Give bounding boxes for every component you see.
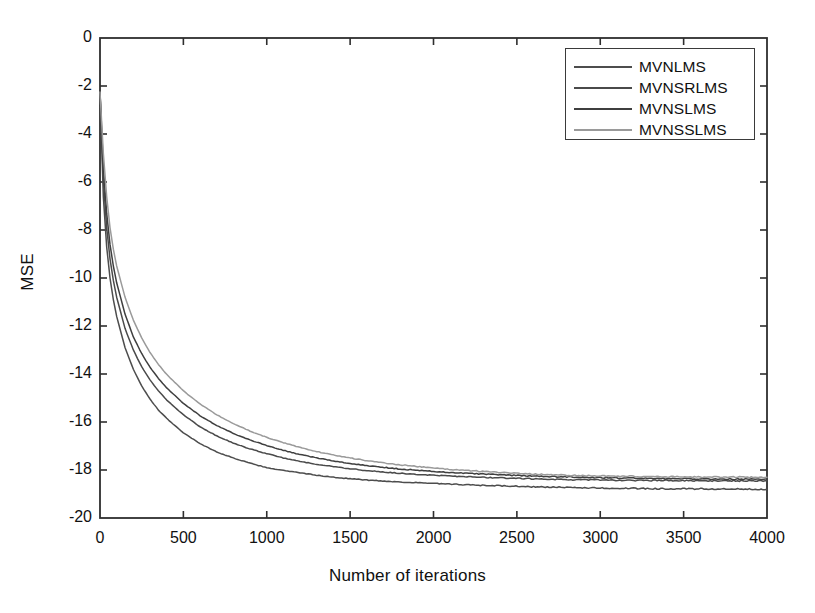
legend-label: MVNSLMS [639, 100, 716, 118]
y-axis-label: MSE [18, 222, 38, 322]
x-tick-label: 1000 [232, 529, 302, 547]
series-line-mvnlms [100, 92, 767, 490]
series-line-mvnslms [100, 92, 767, 480]
y-tick-label: -4 [40, 124, 92, 142]
y-tick-label: -8 [40, 220, 92, 238]
y-tick-label: -20 [40, 508, 92, 526]
series-line-mvnsrlms [100, 92, 767, 481]
legend-item-mvnsrlms: MVNSRLMS [566, 76, 756, 99]
x-tick-label: 4000 [732, 529, 802, 547]
y-tick-label: 0 [40, 28, 92, 46]
x-tick-label: 3500 [649, 529, 719, 547]
y-tick-label: -14 [40, 364, 92, 382]
legend-item-mvnsslms: MVNSSLMS [566, 118, 756, 141]
y-tick-label: -18 [40, 460, 92, 478]
y-tick-label: -6 [40, 172, 92, 190]
x-tick-label: 0 [65, 529, 135, 547]
x-tick-label: 500 [148, 529, 218, 547]
y-tick-label: -12 [40, 316, 92, 334]
y-tick-label: -10 [40, 268, 92, 286]
legend-swatch-line [574, 129, 632, 131]
legend-label: MVNLMS [639, 58, 706, 76]
x-tick-label: 2000 [399, 529, 469, 547]
legend-swatch-line [574, 108, 632, 110]
legend-swatch-line [574, 87, 632, 89]
y-tick-label: -16 [40, 412, 92, 430]
x-tick-label: 3000 [565, 529, 635, 547]
legend-swatch-line [574, 66, 632, 68]
legend-label: MVNSRLMS [639, 79, 728, 97]
legend-item-mvnslms: MVNSLMS [566, 97, 756, 120]
x-tick-label: 2500 [482, 529, 552, 547]
legend-item-mvnlms: MVNLMS [566, 55, 756, 78]
y-tick-label: -2 [40, 76, 92, 94]
mse-convergence-chart: MSE Number of iterations 0-2-4-6-8-10-12… [0, 0, 815, 613]
x-tick-label: 1500 [315, 529, 385, 547]
legend-label: MVNSSLMS [639, 121, 727, 139]
x-axis-label: Number of iterations [0, 566, 815, 586]
series-line-mvnsslms [100, 92, 767, 478]
chart-legend: MVNLMSMVNSRLMSMVNSLMSMVNSSLMS [565, 48, 755, 140]
